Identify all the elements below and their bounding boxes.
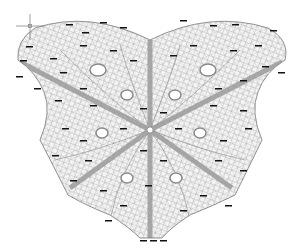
opening — [121, 173, 133, 183]
opening — [194, 128, 206, 138]
opening — [96, 128, 108, 138]
opening — [90, 64, 106, 76]
gridshell-roof-plan — [0, 0, 300, 249]
opening — [170, 173, 182, 183]
central-node — [147, 127, 153, 133]
opening — [169, 90, 181, 100]
opening — [121, 90, 133, 100]
opening — [200, 64, 216, 76]
